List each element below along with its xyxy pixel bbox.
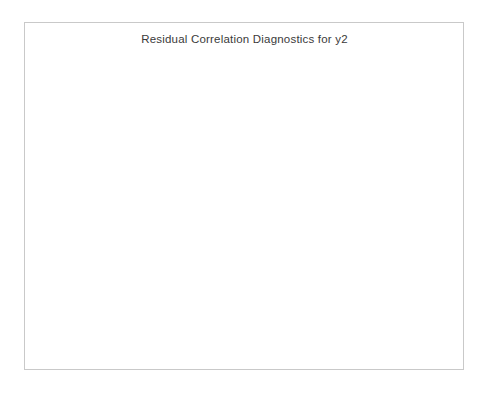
diagnostics-figure: Residual Correlation Diagnostics for y2 … [0,0,489,393]
page-title: Residual Correlation Diagnostics for y2 [0,33,489,45]
figure-border [24,22,464,370]
